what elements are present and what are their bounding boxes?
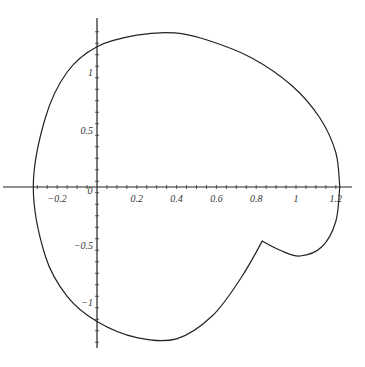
chart-svg: −0.200.20.40.60.811.210.5−0.5−1: [0, 0, 365, 367]
axes: [3, 18, 352, 348]
x-tick-label: 0.8: [250, 193, 263, 204]
x-tick-label: 1: [294, 193, 299, 204]
y-tick-label: 0.5: [81, 125, 94, 136]
x-tick-label: −0.2: [48, 193, 67, 204]
x-tick-label: 1.2: [330, 193, 343, 204]
y-tick-label: 1: [88, 67, 93, 78]
y-tick-label: −1: [81, 297, 93, 308]
x-tick-label: 0.2: [131, 193, 144, 204]
x-tick-label: 0.4: [170, 193, 183, 204]
x-tick-label: 0: [88, 185, 93, 196]
plot-area: −0.200.20.40.60.811.210.5−0.5−1: [0, 0, 365, 367]
x-tick-label: 0.6: [210, 193, 223, 204]
y-tick-label: −0.5: [74, 240, 93, 251]
